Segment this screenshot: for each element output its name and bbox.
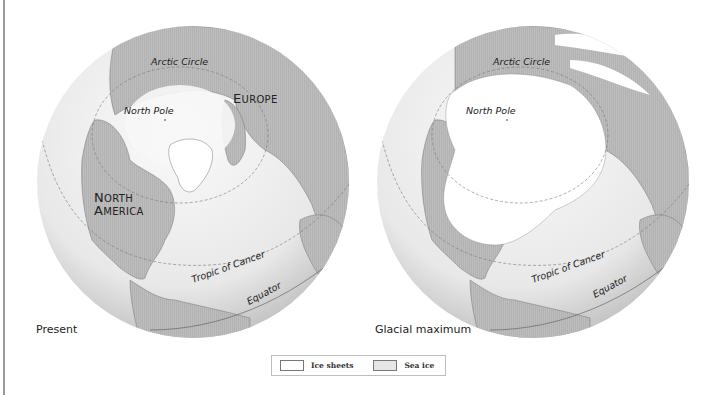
label-north-pole: North Pole [124, 105, 174, 116]
sea-ice-swatch [373, 360, 397, 371]
globe-glacial-maximum: Arctic Circle North Pole Tropic of Cance… [355, 0, 715, 350]
legend: Ice sheets Sea ice [271, 355, 446, 376]
caption-glacial-maximum: Glacial maximum [375, 323, 471, 336]
label-north-pole: North Pole [466, 105, 516, 116]
globe-glacial-svg: Arctic Circle North Pole Tropic of Cance… [355, 0, 715, 350]
legend-item-ice-sheets: Ice sheets [280, 360, 353, 371]
caption-present: Present [36, 323, 77, 336]
north-pole-marker [506, 119, 508, 121]
label-europe: EUROPE [233, 91, 278, 106]
legend-label-sea-ice: Sea ice [404, 361, 434, 370]
label-america: AMERICA [94, 203, 144, 218]
label-arctic-circle: Arctic Circle [492, 56, 550, 67]
globe-present: Arctic Circle North Pole EUROPE NORTH AM… [0, 0, 360, 350]
label-arctic-circle: Arctic Circle [150, 56, 208, 67]
legend-item-sea-ice: Sea ice [373, 360, 434, 371]
north-pole-marker [164, 119, 166, 121]
ice-sheets-swatch [280, 360, 304, 371]
globe-present-svg: Arctic Circle North Pole EUROPE NORTH AM… [0, 0, 360, 350]
legend-label-ice-sheets: Ice sheets [311, 361, 353, 370]
